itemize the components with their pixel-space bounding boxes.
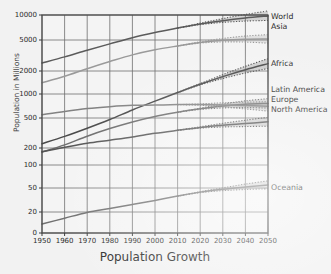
y-ticklabel: 5000 <box>0 36 37 44</box>
y-ticklabel: 1000 <box>0 90 37 98</box>
chart-title: Population Growth <box>42 250 268 264</box>
y-ticklabel: 500 <box>0 114 37 122</box>
series-label-world: World <box>271 12 293 21</box>
y-ticklabel: 0 <box>0 229 37 237</box>
series-label-europe: Europe <box>271 95 298 104</box>
series-label-asia: Asia <box>271 22 287 31</box>
chart-root: Population in Millions Population Growth… <box>0 0 331 274</box>
series-label-oceania: Oceania <box>271 183 303 192</box>
series-label-north-america: North America <box>271 105 327 114</box>
y-ticklabel: 50 <box>0 184 37 192</box>
series-label-africa: Africa <box>271 59 293 68</box>
y-ticklabel: 100 <box>0 161 37 169</box>
population-growth-line-chart <box>0 0 331 274</box>
y-ticklabel: 200 <box>0 144 37 152</box>
y-ticklabel: 20 <box>0 208 37 216</box>
y-ticklabel: 2000 <box>0 67 37 75</box>
x-ticklabel: 2050 <box>255 237 281 245</box>
y-ticklabel: 10000 <box>0 11 37 19</box>
series-label-latin-america: Latin America <box>271 85 325 94</box>
